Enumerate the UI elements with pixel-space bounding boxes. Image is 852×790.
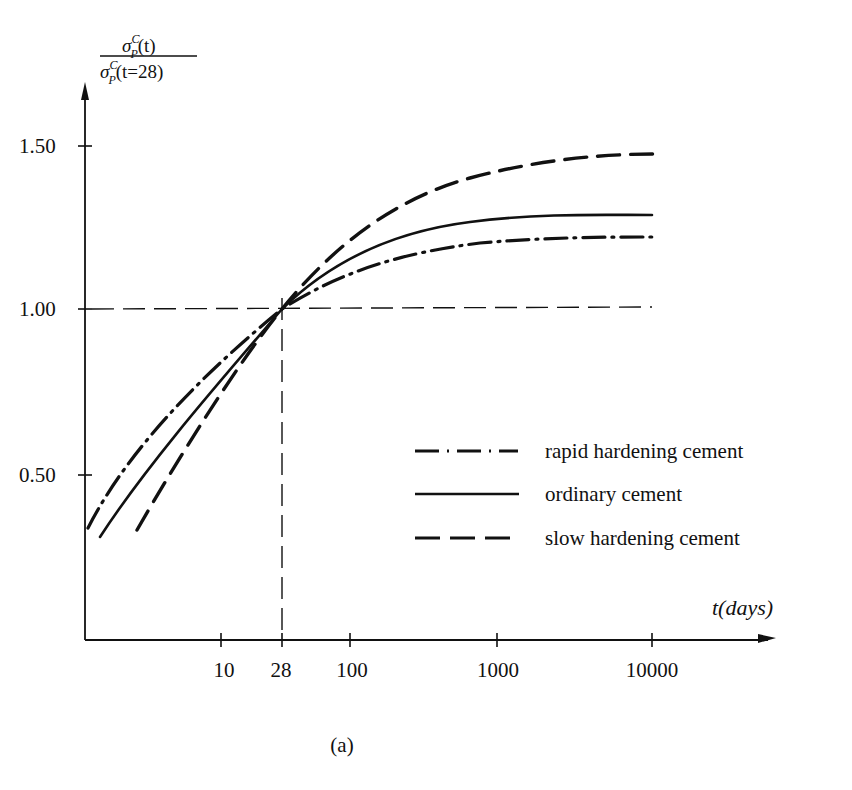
y-tick-label-0-50: 0.50 [19, 463, 56, 487]
legend-label-rapid: rapid hardening cement [545, 439, 743, 463]
x-tick-label-100: 100 [336, 658, 368, 682]
strength-development-chart: σCP(t) σCP(t=28) 1.50 1.00 0.50 10 28 10… [0, 0, 852, 790]
y-axis-arrow-icon [81, 82, 89, 100]
svg-text:σCP(t=28): σCP(t=28) [100, 58, 163, 87]
ylabel-num-arg: (t) [138, 35, 156, 57]
axes [78, 82, 776, 647]
legend-item-rapid: rapid hardening cement [415, 439, 743, 463]
y-tick-label-1-50: 1.50 [19, 134, 56, 158]
reference-line-horizontal-1-00 [92, 307, 652, 309]
x-tick-label-10000: 10000 [626, 658, 679, 682]
legend-item-slow: slow hardening cement [415, 526, 740, 550]
x-tick-label-10: 10 [214, 658, 235, 682]
figure-caption: (a) [330, 733, 353, 757]
y-tick-label-1-00: 1.00 [19, 297, 56, 321]
x-tick-labels: 10 28 100 1000 10000 [214, 658, 679, 682]
y-tick-labels: 1.50 1.00 0.50 [19, 134, 56, 487]
legend-item-ordinary: ordinary cement [415, 482, 682, 506]
x-tick-label-28: 28 [271, 658, 292, 682]
ylabel-den-arg: (t=28) [116, 61, 164, 83]
y-axis-label: σCP(t) σCP(t=28) [100, 32, 197, 87]
legend-label-slow: slow hardening cement [545, 526, 740, 550]
x-axis-title: t(days) [712, 595, 773, 620]
curves [88, 154, 654, 537]
legend: rapid hardening cement ordinary cement s… [415, 439, 743, 550]
x-axis-arrow-icon [758, 634, 776, 643]
curve-slow-hardening-cement [137, 154, 654, 530]
legend-label-ordinary: ordinary cement [545, 482, 682, 506]
x-tick-label-1000: 1000 [477, 658, 519, 682]
